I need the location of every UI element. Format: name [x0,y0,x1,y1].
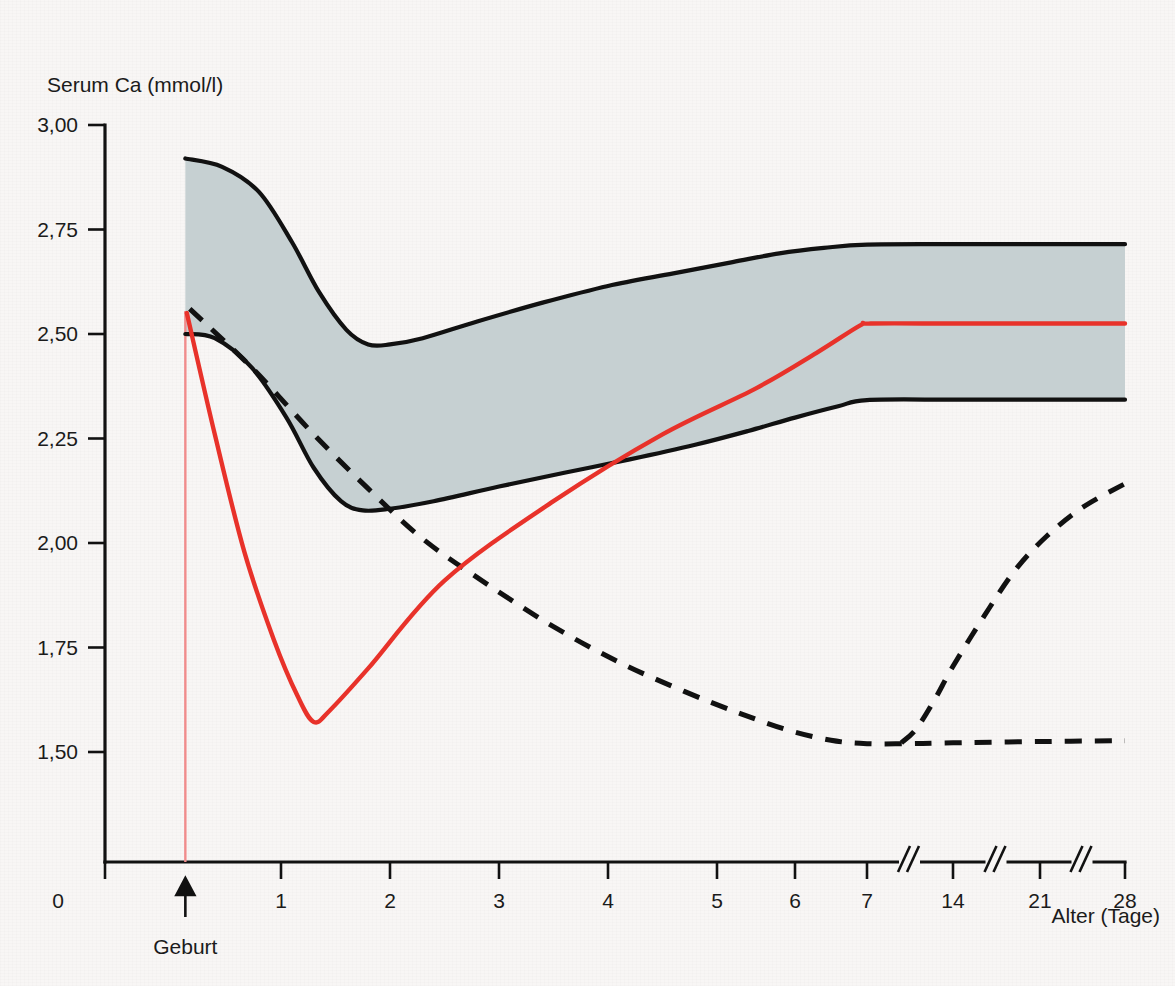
x-axis-tick-label: 3 [493,889,505,912]
x-axis-tick-label: 2 [384,889,396,912]
y-axis-tick-label: 2,00 [37,531,78,554]
y-axis-tick-label: 2,25 [37,427,78,450]
reference-band-fill [185,158,1125,510]
chart-page: 3,002,752,502,252,001,751,50 01234567142… [0,0,1175,986]
serum-calcium-chart: 3,002,752,502,252,001,751,50 01234567142… [0,0,1175,986]
y-axis-tick-label: 2,50 [37,322,78,345]
x-axis-ticks [105,862,1125,879]
x-axis-tick-label: 21 [1028,889,1051,912]
y-axis-title: Serum Ca (mmol/l) [47,73,223,96]
birth-label: Geburt [153,935,217,958]
y-axis-tick-label: 1,50 [37,740,78,763]
x-axis-tick-label: 5 [711,889,723,912]
x-axis-tick-labels: 01234567142128 [52,889,1137,912]
birth-arrow-icon [176,878,194,917]
x-axis-tick-label: 1 [275,889,287,912]
x-axis-break-marks [898,846,1093,872]
x-axis-title: Alter (Tage) [1051,904,1160,927]
y-axis-tick-label: 2,75 [37,218,78,241]
x-axis-tick-label: 4 [602,889,614,912]
y-axis-tick-label: 3,00 [37,113,78,136]
y-axis-tick-label: 1,75 [37,636,78,659]
x-axis-tick-label: 14 [941,889,965,912]
y-axis-tick-labels: 3,002,752,502,252,001,751,50 [37,113,78,763]
dashed-curve-ascending [901,484,1125,743]
y-axis-ticks [88,125,105,752]
x-axis-tick-label: 6 [789,889,801,912]
x-axis-tick-label: 7 [861,889,873,912]
x-axis-tick-label: 0 [52,889,64,912]
